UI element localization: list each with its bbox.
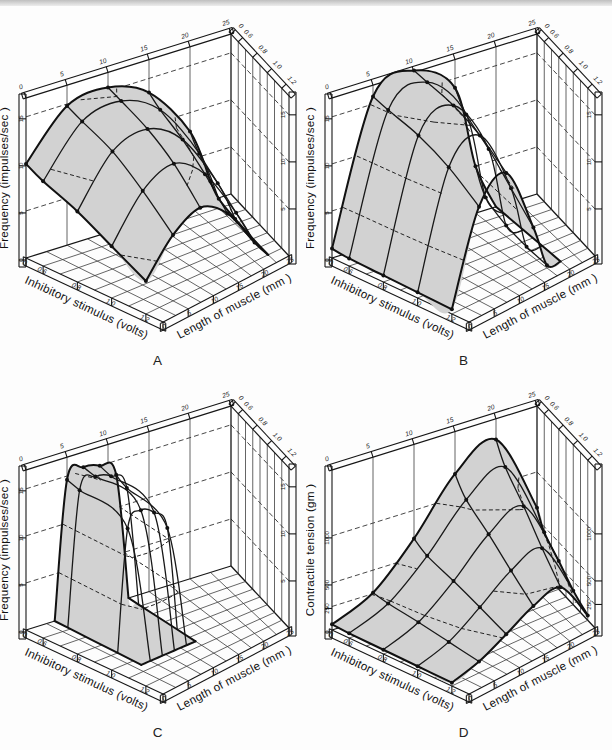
svg-text:10: 10 <box>17 534 24 541</box>
svg-text:10: 10 <box>209 667 219 677</box>
svg-text:10: 10 <box>279 530 286 537</box>
figure-page: 051015202500.60.81.01.200.60.81.01.20510… <box>0 0 612 750</box>
svg-text:20: 20 <box>179 403 189 412</box>
svg-text:0.8: 0.8 <box>377 281 389 291</box>
svg-text:0.6: 0.6 <box>549 28 561 40</box>
length-axis-beam: 0510152025 <box>160 255 295 332</box>
svg-text:1.0: 1.0 <box>411 297 423 307</box>
panel-letter-c: C <box>0 725 306 740</box>
svg-text:5: 5 <box>186 681 193 689</box>
svg-text:1.2: 1.2 <box>139 685 151 695</box>
svg-text:5: 5 <box>492 309 499 317</box>
svg-text:0.8: 0.8 <box>257 43 269 55</box>
svg-text:1.0: 1.0 <box>272 59 284 71</box>
svg-text:0.6: 0.6 <box>37 265 49 275</box>
svg-text:10: 10 <box>404 428 413 437</box>
left-z-post: 051015 <box>17 466 27 639</box>
svg-text:5: 5 <box>279 579 286 583</box>
svg-text:1.0: 1.0 <box>272 431 284 443</box>
svg-text:1.2: 1.2 <box>592 446 604 458</box>
svg-text:1.2: 1.2 <box>445 313 457 323</box>
svg-text:0: 0 <box>324 455 330 463</box>
svg-text:0.6: 0.6 <box>37 637 49 647</box>
panel-a: 051015202500.60.81.01.200.60.81.01.20510… <box>0 6 306 378</box>
surface-plot-d: 051015202500.60.81.01.200.60.81.01.20510… <box>306 378 612 742</box>
svg-text:10: 10 <box>585 158 592 165</box>
svg-text:15: 15 <box>279 111 286 118</box>
svg-text:20: 20 <box>565 640 576 650</box>
svg-text:25: 25 <box>526 390 536 399</box>
svg-text:10: 10 <box>209 295 219 305</box>
svg-text:10: 10 <box>17 162 24 169</box>
svg-text:Length of muscle (mm ): Length of muscle (mm ) <box>481 270 600 340</box>
svg-text:250: 250 <box>323 603 330 614</box>
length-axis-beam: 0510152025 <box>466 255 601 332</box>
svg-text:15: 15 <box>323 115 330 122</box>
svg-text:15: 15 <box>445 416 454 425</box>
svg-text:5: 5 <box>279 207 286 211</box>
svg-text:5: 5 <box>585 207 592 211</box>
svg-text:15: 15 <box>541 282 551 292</box>
svg-text:15: 15 <box>235 282 245 292</box>
svg-text:5: 5 <box>323 211 330 215</box>
svg-text:5: 5 <box>59 442 65 450</box>
svg-text:0.8: 0.8 <box>71 653 83 663</box>
svg-text:10: 10 <box>98 56 107 65</box>
svg-text:0.6: 0.6 <box>343 637 355 647</box>
svg-text:Length of muscle (mm ): Length of muscle (mm ) <box>175 642 294 712</box>
svg-text:1.0: 1.0 <box>578 431 590 443</box>
svg-text:10: 10 <box>98 428 107 437</box>
panel-grid: 051015202500.60.81.01.200.60.81.01.20510… <box>0 6 612 750</box>
svg-text:15: 15 <box>541 654 551 664</box>
svg-text:500: 500 <box>323 579 330 590</box>
svg-text:Frequency (impulses/sec ): Frequency (impulses/sec ) <box>0 107 10 249</box>
svg-text:5: 5 <box>59 70 65 78</box>
svg-text:0.6: 0.6 <box>243 28 255 40</box>
svg-text:5: 5 <box>186 309 193 317</box>
svg-text:0: 0 <box>237 394 245 402</box>
svg-text:20: 20 <box>565 268 576 278</box>
panel-b: 051015202500.60.81.01.200.60.81.01.20510… <box>306 6 612 378</box>
svg-text:0.8: 0.8 <box>377 653 389 663</box>
svg-text:0.6: 0.6 <box>549 400 561 412</box>
svg-text:Length of muscle (mm ): Length of muscle (mm ) <box>175 270 294 340</box>
svg-text:15: 15 <box>445 44 454 53</box>
svg-text:0: 0 <box>323 630 330 634</box>
svg-text:Frequency (impulses/sec ): Frequency (impulses/sec ) <box>306 107 316 249</box>
svg-text:5: 5 <box>365 70 371 78</box>
svg-text:20: 20 <box>259 640 270 650</box>
svg-text:1000: 1000 <box>585 526 592 540</box>
svg-text:10: 10 <box>279 158 286 165</box>
svg-text:0: 0 <box>18 455 24 463</box>
panel-c: 051015202500.60.81.01.200.60.81.01.20510… <box>0 378 306 750</box>
svg-text:15: 15 <box>139 44 148 53</box>
svg-text:15: 15 <box>235 654 245 664</box>
svg-text:15: 15 <box>139 416 148 425</box>
svg-text:10: 10 <box>323 162 330 169</box>
svg-text:5: 5 <box>17 583 24 587</box>
svg-text:15: 15 <box>279 483 286 490</box>
panel-letter-d: D <box>306 725 612 740</box>
left-z-post: 02505001000 <box>323 466 333 639</box>
svg-text:25: 25 <box>220 390 230 399</box>
svg-text:5: 5 <box>492 681 499 689</box>
svg-text:15: 15 <box>585 111 592 118</box>
svg-text:0: 0 <box>237 22 245 30</box>
svg-text:Contractile tension (gm ): Contractile tension (gm ) <box>306 484 316 617</box>
left-z-post: 051015 <box>17 94 27 267</box>
panel-letter-b: B <box>306 353 612 368</box>
svg-text:20: 20 <box>485 403 495 412</box>
svg-text:1.0: 1.0 <box>578 59 590 71</box>
svg-text:0: 0 <box>17 258 24 262</box>
svg-text:10: 10 <box>515 667 525 677</box>
svg-text:0.8: 0.8 <box>257 415 269 427</box>
svg-text:15: 15 <box>17 487 24 494</box>
svg-text:0: 0 <box>324 83 330 91</box>
svg-text:25: 25 <box>526 18 536 27</box>
svg-text:0.6: 0.6 <box>343 265 355 275</box>
svg-text:0: 0 <box>543 22 551 30</box>
svg-text:1.2: 1.2 <box>445 685 457 695</box>
svg-text:0: 0 <box>323 258 330 262</box>
svg-text:1.2: 1.2 <box>286 446 298 458</box>
svg-text:0.6: 0.6 <box>243 400 255 412</box>
